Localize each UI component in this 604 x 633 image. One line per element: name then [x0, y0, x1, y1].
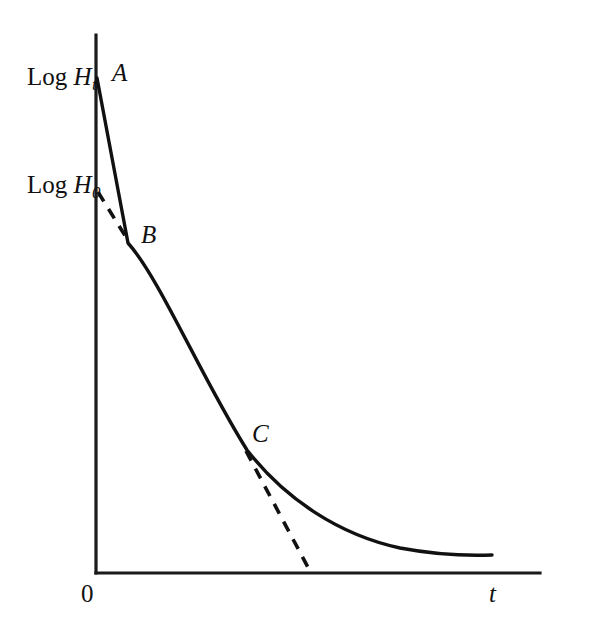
extrapolation-c-to-axis-path [246, 451, 311, 573]
point-label-a: A [112, 60, 127, 85]
log-ht-subscript: t [92, 75, 97, 94]
y-axis-label-log-ht: Log Ht [27, 64, 97, 93]
log-ht-prefix: Log [27, 63, 74, 90]
chart-plot-area [0, 0, 604, 633]
point-label-c: C [252, 421, 269, 446]
y-axis-label-log-h0: Log H0 [27, 172, 101, 201]
origin-tick-label: 0 [81, 581, 94, 606]
point-label-b: B [141, 222, 156, 247]
x-axis-tick-label-t: t [489, 581, 496, 606]
survival-curve-path [97, 78, 492, 555]
log-h0-prefix: Log [27, 171, 74, 198]
log-h0-subscript: 0 [92, 183, 101, 202]
figure-container: Log Ht Log H0 A B C 0 t [0, 0, 604, 633]
log-ht-symbol: H [74, 63, 92, 90]
log-h0-symbol: H [74, 171, 92, 198]
